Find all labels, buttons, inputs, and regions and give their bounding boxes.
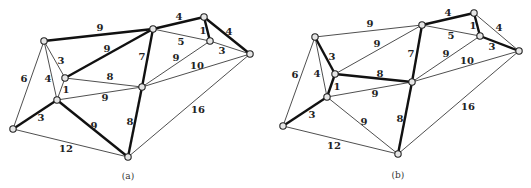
edge-weight-label: 10 [460, 55, 474, 66]
edge-D-E [210, 41, 250, 54]
edge-weight-label: 8 [377, 68, 384, 79]
edges-a [13, 17, 250, 157]
node-I [10, 126, 16, 132]
edge-weight-label: 6 [21, 73, 28, 84]
edge-weight-label: 4 [314, 68, 321, 79]
edge-weight-label: 1 [200, 25, 207, 36]
graph-a: 941453979108934163981216 (a) [10, 11, 253, 181]
edge-weight-label: 1 [63, 84, 70, 95]
edge-weight-label: 8 [127, 116, 134, 127]
node-J [125, 154, 131, 160]
caption-b: (b) [392, 170, 405, 180]
edge-A-H [44, 41, 57, 100]
node-B [419, 22, 425, 28]
node-A [312, 34, 318, 40]
edge-weight-label: 7 [139, 51, 146, 62]
edge-weight-label: 3 [309, 109, 316, 120]
edge-weight-label: 9 [443, 48, 450, 59]
edge-weight-label: 4 [496, 22, 503, 33]
edge-weight-label: 9 [367, 18, 374, 29]
edge-weight-label: 1 [470, 20, 477, 31]
edges-b [283, 13, 519, 154]
edge-weight-label: 4 [176, 11, 183, 22]
node-G [139, 84, 145, 90]
node-D [477, 33, 483, 39]
graph-figure: 941453979108934163981216 (a) 94145397910… [0, 0, 531, 188]
graph-b: 941453979108934163981216 (b) [280, 7, 522, 180]
node-I [280, 123, 286, 129]
edge-weight-label: 3 [489, 41, 496, 52]
node-B [150, 26, 156, 32]
edge-weight-label: 9 [97, 22, 104, 33]
edge-weight-label: 16 [191, 104, 205, 115]
node-F [62, 75, 68, 81]
edge-weight-label: 5 [178, 36, 185, 47]
edge-F-G [335, 74, 412, 82]
edge-weight-label: 4 [226, 26, 233, 37]
node-E [247, 51, 253, 57]
edge-weight-label: 9 [102, 92, 109, 103]
node-C [471, 10, 477, 16]
edge-weight-label: 9 [374, 38, 381, 49]
edge-weight-label: 3 [329, 51, 336, 62]
node-H [54, 97, 60, 103]
edge-weight-label: 6 [292, 69, 299, 80]
edge-weight-label: 4 [45, 73, 52, 84]
edge-E-J [398, 51, 519, 154]
edge-weight-label: 3 [58, 55, 65, 66]
caption-a: (a) [122, 171, 134, 181]
edge-F-G [65, 78, 142, 87]
edge-H-I [283, 97, 327, 126]
edge-weight-label: 16 [461, 101, 475, 112]
edge-H-I [13, 100, 57, 129]
edge-weight-label: 3 [219, 45, 226, 56]
node-E [516, 48, 522, 54]
edge-weight-label: 9 [361, 116, 368, 127]
edge-weight-label: 9 [372, 88, 379, 99]
edge-D-E [480, 36, 519, 51]
edge-weight-label: 4 [445, 7, 452, 18]
node-D [207, 38, 213, 44]
edge-weight-label: 12 [59, 143, 73, 154]
edge-weight-label: 5 [448, 30, 455, 41]
node-C [201, 14, 207, 20]
edge-weight-label: 7 [408, 48, 415, 59]
node-J [395, 151, 401, 157]
edge-weight-label: 9 [91, 120, 98, 131]
node-A [41, 38, 47, 44]
edge-H-G [57, 87, 142, 100]
edge-weight-label: 9 [104, 43, 111, 54]
edge-weight-label: 8 [397, 113, 404, 124]
edge-weight-label: 8 [107, 71, 114, 82]
edge-weight-label: 1 [334, 81, 341, 92]
node-G [409, 79, 415, 85]
edge-weight-label: 10 [190, 60, 204, 71]
edge-weight-label: 12 [327, 140, 341, 151]
edge-weight-label: 3 [38, 112, 45, 123]
edge-weight-label: 9 [173, 52, 180, 63]
node-H [324, 94, 330, 100]
node-F [332, 71, 338, 77]
